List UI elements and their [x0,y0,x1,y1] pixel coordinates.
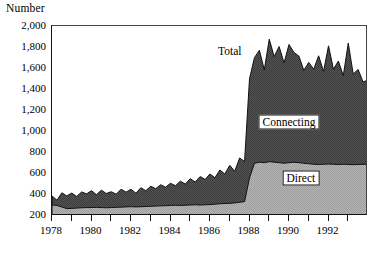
y-tick-label-1200: 1,200 [2,104,46,115]
x-tick-label-1992: 1992 [307,224,349,236]
plot-area: Total Connecting Direct [51,25,367,215]
x-tick-mark [308,215,309,221]
series-label-total: Total [217,45,242,57]
y-tick-label-2000: 2,000 [2,20,46,31]
x-tick-mark [288,215,289,221]
x-tick-label-1984: 1984 [149,224,191,236]
y-tick-label-400: 400 [2,188,46,199]
y-tick-label-600: 600 [2,167,46,178]
x-tick-mark [268,215,269,221]
x-tick-mark [189,215,190,221]
y-tick-label-800: 800 [2,146,46,157]
x-tick-mark [328,215,329,221]
y-tick-label-1000: 1,000 [2,125,46,136]
x-tick-mark [209,215,210,221]
x-tick-label-1980: 1980 [70,224,112,236]
x-tick-label-1978: 1978 [30,224,72,236]
x-tick-mark [130,215,131,221]
stacked-area-svg [52,26,367,215]
series-label-connecting: Connecting [258,115,319,130]
y-tick-label-1600: 1,600 [2,62,46,73]
x-tick-label-1988: 1988 [228,224,270,236]
x-tick-mark [51,215,52,221]
y-tick-label-1800: 1,800 [2,41,46,52]
x-tick-mark [110,215,111,221]
x-tick-mark [249,215,250,221]
y-axis-title: Number [6,2,45,14]
x-tick-mark [150,215,151,221]
x-tick-label-1982: 1982 [109,224,151,236]
chart-figure: Number 2,000 1,800 1,600 1,400 1,200 1,0… [0,0,381,263]
series-label-direct: Direct [282,171,319,186]
x-tick-mark [229,215,230,221]
y-tick-label-200: 200 [2,209,46,220]
x-tick-mark [170,215,171,221]
y-tick-label-1400: 1,400 [2,83,46,94]
x-tick-mark [91,215,92,221]
x-tick-mark [71,215,72,221]
x-tick-label-1990: 1990 [267,224,309,236]
x-tick-mark [347,215,348,221]
x-tick-label-1986: 1986 [188,224,230,236]
